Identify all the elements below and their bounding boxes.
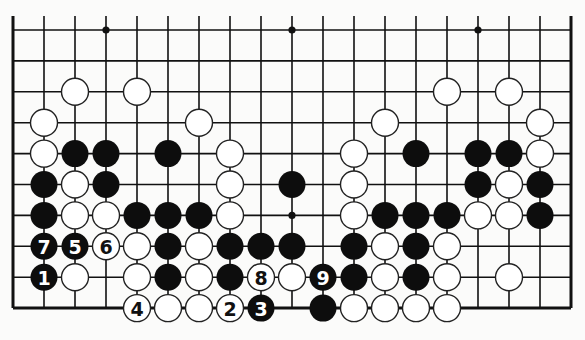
black-stone [465, 171, 492, 198]
white-stone [527, 109, 554, 136]
black-stone-move-3: 3 [248, 295, 275, 322]
white-stone [341, 295, 368, 322]
white-stone [124, 233, 151, 260]
black-stone [341, 233, 368, 260]
black-stone [403, 140, 430, 167]
black-stone [31, 171, 58, 198]
white-stone [496, 171, 523, 198]
move-number: 6 [99, 236, 112, 258]
move-number: 4 [130, 298, 143, 320]
white-stone-move-6: 6 [93, 233, 120, 260]
black-stone-move-7: 7 [31, 233, 58, 260]
white-stone [372, 109, 399, 136]
white-stone [124, 264, 151, 291]
black-stone [527, 202, 554, 229]
move-number: 8 [254, 267, 267, 289]
black-stone [279, 233, 306, 260]
white-stone [341, 202, 368, 229]
star-point-icon [288, 212, 295, 219]
white-stone [186, 233, 213, 260]
white-stone [372, 264, 399, 291]
white-stone [527, 140, 554, 167]
white-stone [124, 78, 151, 105]
move-number: 9 [316, 267, 329, 289]
black-stone [527, 171, 554, 198]
black-stone [465, 140, 492, 167]
black-stone [124, 202, 151, 229]
white-stone [217, 171, 244, 198]
white-stone [186, 295, 213, 322]
white-stone [434, 233, 461, 260]
white-stone-move-8: 8 [248, 264, 275, 291]
white-stone [217, 140, 244, 167]
black-stone [496, 140, 523, 167]
white-stone [62, 78, 89, 105]
white-stone [372, 295, 399, 322]
white-stone [62, 171, 89, 198]
white-stone [186, 109, 213, 136]
white-stone [155, 295, 182, 322]
white-stone [93, 202, 120, 229]
white-stone [496, 202, 523, 229]
white-stone [434, 295, 461, 322]
white-stone [434, 78, 461, 105]
black-stone [155, 202, 182, 229]
black-stone-move-1: 1 [31, 264, 58, 291]
black-stone [434, 202, 461, 229]
star-point-icon [474, 26, 481, 33]
white-stone [279, 264, 306, 291]
black-stone-move-5: 5 [62, 233, 89, 260]
move-number: 1 [37, 267, 50, 289]
white-stone [186, 264, 213, 291]
white-stone [62, 264, 89, 291]
star-point-icon [102, 26, 109, 33]
black-stone [341, 264, 368, 291]
black-stone [93, 140, 120, 167]
black-stone [217, 233, 244, 260]
move-number: 2 [223, 298, 236, 320]
move-number: 3 [254, 298, 267, 320]
white-stone [31, 109, 58, 136]
black-stone [93, 171, 120, 198]
black-stone [186, 202, 213, 229]
black-stone [403, 264, 430, 291]
black-stone [31, 202, 58, 229]
black-stone [403, 233, 430, 260]
black-stone [403, 202, 430, 229]
black-stone [279, 171, 306, 198]
black-stone [248, 233, 275, 260]
move-number: 7 [37, 236, 50, 258]
white-stone [31, 140, 58, 167]
white-stone [496, 78, 523, 105]
star-point-icon [288, 26, 295, 33]
white-stone-move-4: 4 [124, 295, 151, 322]
white-stone [341, 171, 368, 198]
go-board: 756189423 [0, 0, 585, 340]
white-stone [341, 140, 368, 167]
black-stone [310, 295, 337, 322]
black-stone [372, 202, 399, 229]
white-stone [496, 264, 523, 291]
black-stone [155, 264, 182, 291]
white-stone [62, 202, 89, 229]
white-stone [217, 202, 244, 229]
white-stone [465, 202, 492, 229]
white-stone [372, 233, 399, 260]
black-stone [217, 264, 244, 291]
black-stone [155, 233, 182, 260]
black-stone [62, 140, 89, 167]
move-number: 5 [68, 236, 81, 258]
black-stone-move-9: 9 [310, 264, 337, 291]
white-stone-move-2: 2 [217, 295, 244, 322]
white-stone [403, 295, 430, 322]
white-stone [434, 264, 461, 291]
black-stone [155, 140, 182, 167]
